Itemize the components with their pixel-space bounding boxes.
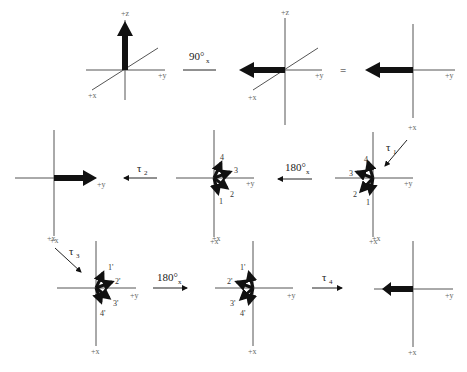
panel-6: +y +x [15,130,106,245]
svg-text:2': 2' [115,277,121,286]
svg-text:2: 2 [230,190,234,199]
svg-text:+z: +z [281,8,290,17]
svg-text:x: x [178,278,182,286]
svg-text:1: 1 [219,197,223,206]
panel-5: +y +x 1 2 3 4 [176,130,255,246]
magnetization-vector-z [117,21,133,70]
diagram-canvas: +z +y +x 90° x +z +y +x = +y +x τ 1 [0,0,467,372]
svg-text:4: 4 [364,155,368,164]
operator-90x: 90° x [183,50,216,70]
svg-text:τ: τ [69,245,74,257]
svg-text:+y: +y [130,291,139,300]
svg-text:+x: +x [372,234,381,243]
svg-text:+x: +x [408,348,417,357]
svg-text:x: x [306,168,310,176]
equals-sign: = [340,64,346,76]
svg-text:+y: +y [445,291,454,300]
magnetization-vector-neg-y [239,62,285,78]
svg-text:4': 4' [240,309,246,318]
svg-text:2: 2 [144,169,148,177]
svg-text:3': 3' [113,299,119,308]
svg-text:+y: +y [445,71,454,80]
svg-text:3': 3' [230,299,236,308]
svg-text:+y: +y [246,179,255,188]
panel-2: +z +y +x [239,8,324,125]
panel-8: +y +x 1' 2' 3' 4' [215,241,296,356]
svg-text:τ: τ [137,162,142,174]
svg-text:4': 4' [100,309,106,318]
operator-180x-a: 180° x [278,161,312,179]
magnetization-vector-pos-y [54,170,97,186]
svg-text:1: 1 [393,148,397,156]
svg-text:3: 3 [76,252,80,260]
svg-text:+x: +x [47,234,56,243]
svg-text:τ: τ [322,271,327,283]
svg-text:1: 1 [366,198,370,207]
svg-text:+x: +x [248,93,257,102]
svg-text:+x: +x [91,347,100,356]
z-axis-label: +z [121,9,130,18]
operator-180x-b: 180° x [153,271,187,288]
svg-text:4: 4 [329,278,333,286]
svg-text:τ: τ [386,141,391,153]
svg-text:+y: +y [404,179,413,188]
panel-1: +z +y +x [86,9,167,100]
svg-text:x: x [206,57,210,65]
panel-7: +y +x 1' 2' 3' 4' [57,241,139,356]
svg-text:+y: +y [287,291,296,300]
svg-text:3: 3 [234,166,238,175]
panel-4: +y +x 1 2 3 4 [335,132,413,246]
svg-text:2': 2' [227,277,233,286]
operator-tau3: τ 3 [55,245,81,272]
svg-text:90°: 90° [189,50,204,62]
svg-text:1': 1' [240,263,246,272]
svg-text:180°: 180° [157,271,178,283]
svg-text:+y: +y [315,71,324,80]
svg-text:4: 4 [220,153,224,162]
panel-3: +y +x [365,24,455,132]
svg-text:+x: +x [408,123,417,132]
operator-tau1: τ 1 [385,140,407,166]
operator-tau2: τ 2 [124,162,157,178]
svg-text:180°: 180° [285,161,306,173]
svg-text:+x: +x [212,234,221,243]
y-axis-label: +y [158,71,167,80]
svg-text:+x: +x [248,347,257,356]
x-axis-label: +x [88,91,97,100]
operator-tau4: τ 4 [312,271,342,288]
svg-text:3: 3 [349,169,353,178]
svg-text:+y: +y [97,180,106,189]
svg-text:1': 1' [108,263,114,272]
panel-9: +y +x +x [372,234,454,357]
svg-text:2: 2 [353,190,357,199]
